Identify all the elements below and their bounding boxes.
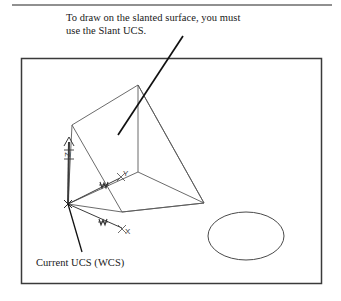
floor-ellipse [208,212,284,260]
slant-ucs-caption: To draw on the slanted surface, you must… [66,11,281,37]
wedge-bottom-face-edges [68,203,204,212]
wcs-marker-lower [98,219,108,225]
wedge-solid [68,85,204,212]
figure-root: Z Y X To draw on [0,0,341,301]
ucs-label-leader-line [68,204,82,252]
wedge-right-back-edge [138,85,204,203]
ucs-x-axis-letter: X [125,227,131,236]
ucs-z-axis [68,142,69,204]
wedge-floor-edge-right [138,172,204,203]
caption-leader-line [118,36,183,135]
ucs-z-axis-letter: Z [63,152,72,157]
current-ucs-label: Current UCS (WCS) [36,256,124,269]
ucs-y-axis-letter: Y [123,169,129,178]
ucs-y-axis [68,178,120,204]
